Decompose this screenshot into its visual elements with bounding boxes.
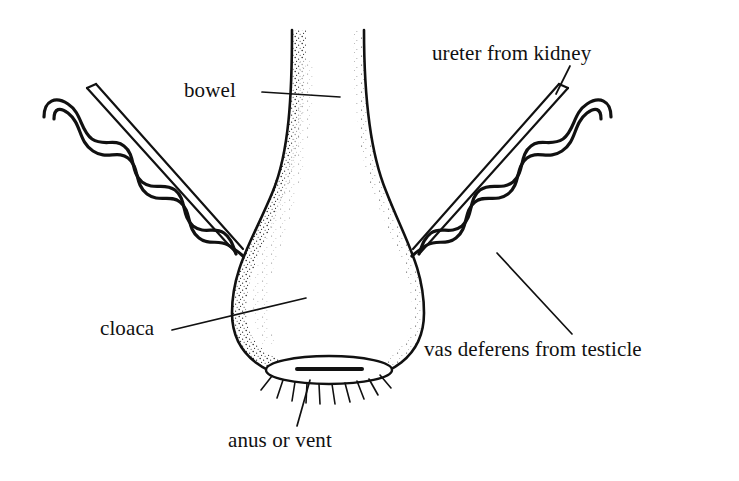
label-vas-deferens-from-testicle: vas deferens from testicle (424, 339, 642, 360)
ureter-left (87, 84, 243, 253)
cloaca-diagram (0, 0, 739, 481)
vas-deferens-left (44, 100, 243, 256)
vent-group (261, 356, 392, 404)
figure-canvas: bowel ureter from kidney cloaca vas defe… (0, 0, 739, 481)
label-anus-or-vent: anus or vent (228, 430, 332, 451)
label-bowel: bowel (184, 80, 236, 101)
cloaca-body-group (232, 30, 424, 382)
vas-deferens-right (412, 100, 611, 256)
leader-ureter (556, 66, 570, 94)
leader-vas-deferens (497, 253, 572, 334)
ureter-right (413, 84, 568, 253)
label-ureter-from-kidney: ureter from kidney (432, 43, 591, 64)
leader-anus (297, 380, 310, 426)
label-cloaca: cloaca (100, 318, 154, 339)
